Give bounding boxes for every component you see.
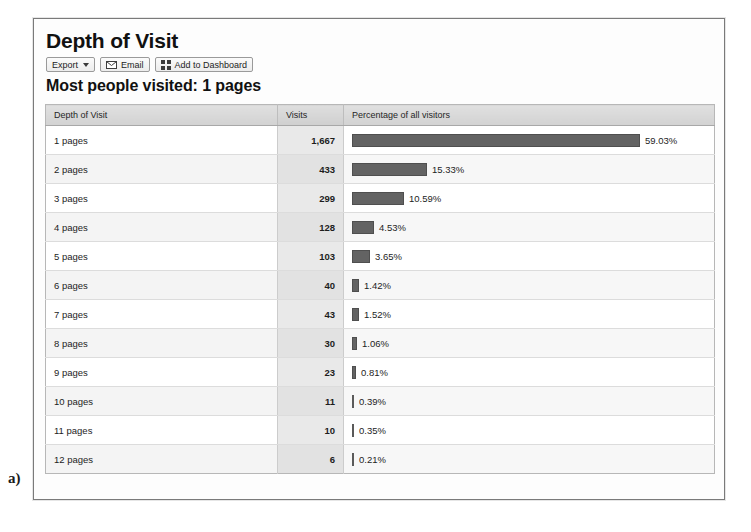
- report-toolbar: Export Email: [46, 57, 714, 72]
- column-header-percentage[interactable]: Percentage of all visitors: [344, 105, 715, 126]
- cell-percentage: 4.53%: [344, 213, 715, 242]
- export-label: Export: [52, 60, 78, 70]
- table-row[interactable]: 8 pages301.06%: [46, 329, 715, 358]
- percentage-label: 4.53%: [379, 222, 406, 233]
- percentage-label: 59.03%: [645, 135, 677, 146]
- percentage-bar: [352, 221, 374, 234]
- cell-visits: 1,667: [278, 126, 344, 155]
- cell-visits: 10: [278, 416, 344, 445]
- percentage-label: 10.59%: [409, 193, 441, 204]
- envelope-icon: [106, 61, 117, 69]
- table-row[interactable]: 3 pages29910.59%: [46, 184, 715, 213]
- percentage-bar: [352, 250, 370, 263]
- cell-depth: 12 pages: [46, 445, 278, 474]
- cell-percentage: 1.42%: [344, 271, 715, 300]
- cell-percentage: 59.03%: [344, 126, 715, 155]
- cell-visits: 30: [278, 329, 344, 358]
- percentage-bar: [352, 337, 357, 350]
- cell-depth: 6 pages: [46, 271, 278, 300]
- percentage-bar: [352, 453, 354, 466]
- percentage-bar: [352, 366, 356, 379]
- cell-percentage: 0.21%: [344, 445, 715, 474]
- cell-percentage: 1.06%: [344, 329, 715, 358]
- table-row[interactable]: 4 pages1284.53%: [46, 213, 715, 242]
- percentage-bar: [352, 192, 404, 205]
- grid-icon: [161, 60, 171, 70]
- table-row[interactable]: 7 pages431.52%: [46, 300, 715, 329]
- percentage-bar: [352, 395, 354, 408]
- table-row[interactable]: 12 pages60.21%: [46, 445, 715, 474]
- cell-depth: 4 pages: [46, 213, 278, 242]
- percentage-bar: [352, 279, 359, 292]
- table-body: 1 pages1,66759.03%2 pages43315.33%3 page…: [46, 126, 715, 474]
- percentage-label: 1.52%: [364, 309, 391, 320]
- cell-visits: 128: [278, 213, 344, 242]
- cell-percentage: 15.33%: [344, 155, 715, 184]
- cell-visits: 11: [278, 387, 344, 416]
- cell-percentage: 0.39%: [344, 387, 715, 416]
- column-header-depth[interactable]: Depth of Visit: [46, 105, 278, 126]
- percentage-label: 1.06%: [362, 338, 389, 349]
- report-subtitle: Most people visited: 1 pages: [46, 77, 714, 95]
- table-row[interactable]: 1 pages1,66759.03%: [46, 126, 715, 155]
- cell-depth: 11 pages: [46, 416, 278, 445]
- percentage-label: 0.35%: [359, 425, 386, 436]
- cell-depth: 3 pages: [46, 184, 278, 213]
- cell-visits: 6: [278, 445, 344, 474]
- percentage-label: 3.65%: [375, 251, 402, 262]
- depth-of-visit-table: Depth of Visit Visits Percentage of all …: [45, 104, 715, 474]
- cell-visits: 299: [278, 184, 344, 213]
- cell-depth: 10 pages: [46, 387, 278, 416]
- email-label: Email: [121, 60, 144, 70]
- page-title: Depth of Visit: [46, 29, 714, 53]
- add-to-dashboard-label: Add to Dashboard: [175, 60, 248, 70]
- percentage-label: 1.42%: [364, 280, 391, 291]
- report-panel: Depth of Visit Export Email: [33, 18, 725, 500]
- cell-visits: 23: [278, 358, 344, 387]
- percentage-label: 0.39%: [359, 396, 386, 407]
- chevron-down-icon: [83, 63, 89, 67]
- cell-percentage: 0.35%: [344, 416, 715, 445]
- cell-depth: 1 pages: [46, 126, 278, 155]
- cell-depth: 5 pages: [46, 242, 278, 271]
- cell-depth: 7 pages: [46, 300, 278, 329]
- cell-percentage: 3.65%: [344, 242, 715, 271]
- percentage-label: 0.21%: [359, 454, 386, 465]
- table-row[interactable]: 9 pages230.81%: [46, 358, 715, 387]
- cell-visits: 103: [278, 242, 344, 271]
- cell-visits: 40: [278, 271, 344, 300]
- column-header-visits[interactable]: Visits: [278, 105, 344, 126]
- table-header-row: Depth of Visit Visits Percentage of all …: [46, 105, 715, 126]
- cell-percentage: 1.52%: [344, 300, 715, 329]
- table-row[interactable]: 10 pages110.39%: [46, 387, 715, 416]
- percentage-label: 0.81%: [361, 367, 388, 378]
- email-button[interactable]: Email: [100, 57, 150, 72]
- cell-depth: 8 pages: [46, 329, 278, 358]
- table-row[interactable]: 2 pages43315.33%: [46, 155, 715, 184]
- percentage-bar: [352, 308, 359, 321]
- export-button[interactable]: Export: [46, 57, 95, 72]
- percentage-label: 15.33%: [432, 164, 464, 175]
- cell-depth: 2 pages: [46, 155, 278, 184]
- cell-visits: 43: [278, 300, 344, 329]
- cell-depth: 9 pages: [46, 358, 278, 387]
- cell-percentage: 0.81%: [344, 358, 715, 387]
- percentage-bar: [352, 424, 354, 437]
- cell-percentage: 10.59%: [344, 184, 715, 213]
- table-row[interactable]: 5 pages1033.65%: [46, 242, 715, 271]
- figure-label: a): [8, 470, 21, 487]
- percentage-bar: [352, 134, 640, 147]
- percentage-bar: [352, 163, 427, 176]
- cell-visits: 433: [278, 155, 344, 184]
- table-row[interactable]: 11 pages100.35%: [46, 416, 715, 445]
- table-row[interactable]: 6 pages401.42%: [46, 271, 715, 300]
- add-to-dashboard-button[interactable]: Add to Dashboard: [155, 57, 254, 72]
